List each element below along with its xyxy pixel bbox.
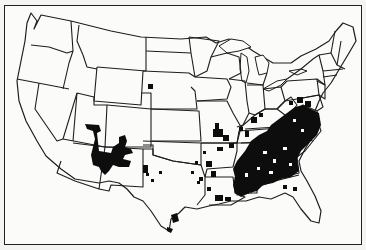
us-distribution-map (5, 6, 363, 246)
map-frame (4, 5, 362, 245)
south-dakota-outlier (148, 84, 153, 89)
